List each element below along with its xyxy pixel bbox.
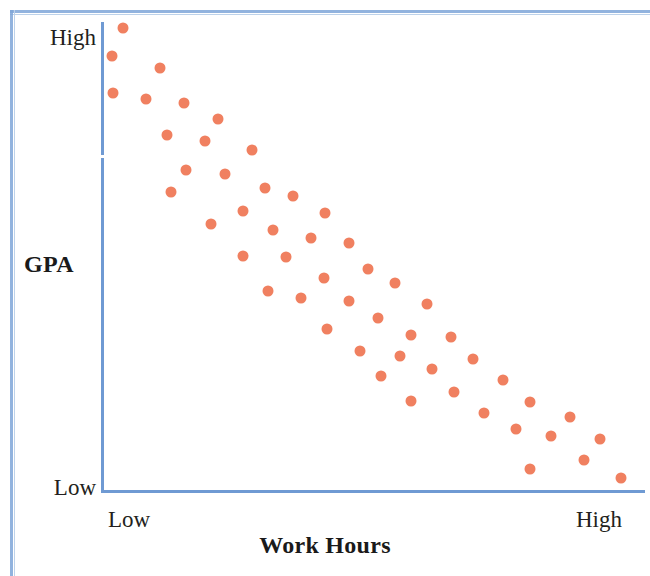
scatter-point [107,88,118,99]
scatter-point [179,98,190,109]
scatter-point [268,224,279,235]
scatter-point [199,135,210,146]
scatter-point [288,190,299,201]
scatter-points-layer [0,0,650,576]
scatter-point [546,430,557,441]
scatter-point [524,396,535,407]
scatter-point [405,396,416,407]
scatter-point [422,298,433,309]
scatter-point [260,182,271,193]
scatter-point [389,278,400,289]
scatter-point [511,423,522,434]
scatter-point [468,353,479,364]
scatter-point [141,94,152,105]
scatter-point [478,408,489,419]
scatter-point [497,375,508,386]
scatter-point [238,206,249,217]
scatter-point [427,363,438,374]
scatter-point [181,164,192,175]
scatter-point [117,22,128,33]
scatter-point [344,238,355,249]
scatter-point [375,371,386,382]
scatter-point [106,50,117,61]
scatter-point [238,251,249,262]
scatter-point [165,186,176,197]
scatter-point [320,208,331,219]
scatter-point [247,144,258,155]
scatter-point [594,433,605,444]
scatter-point [161,129,172,140]
scatter-point [213,114,224,125]
scatter-point [578,454,589,465]
scatter-point [206,219,217,230]
scatter-point [616,472,627,483]
scatter-point [362,264,373,275]
scatter-point [564,412,575,423]
scatter-point [395,350,406,361]
scatter-point [155,62,166,73]
scatter-point [449,387,460,398]
scatter-point [405,330,416,341]
scatter-point [322,324,333,335]
scatter-point [305,233,316,244]
scatter-point [446,331,457,342]
scatter-point [373,312,384,323]
scatter-point [524,464,535,475]
scatter-point [354,345,365,356]
scatter-point [295,292,306,303]
scatter-point [343,295,354,306]
scatter-point [262,286,273,297]
scatter-point [280,252,291,263]
scatter-point [319,272,330,283]
scatter-plot-screenshot: High Low Low High GPA Work Hours [0,0,650,576]
scatter-point [219,168,230,179]
